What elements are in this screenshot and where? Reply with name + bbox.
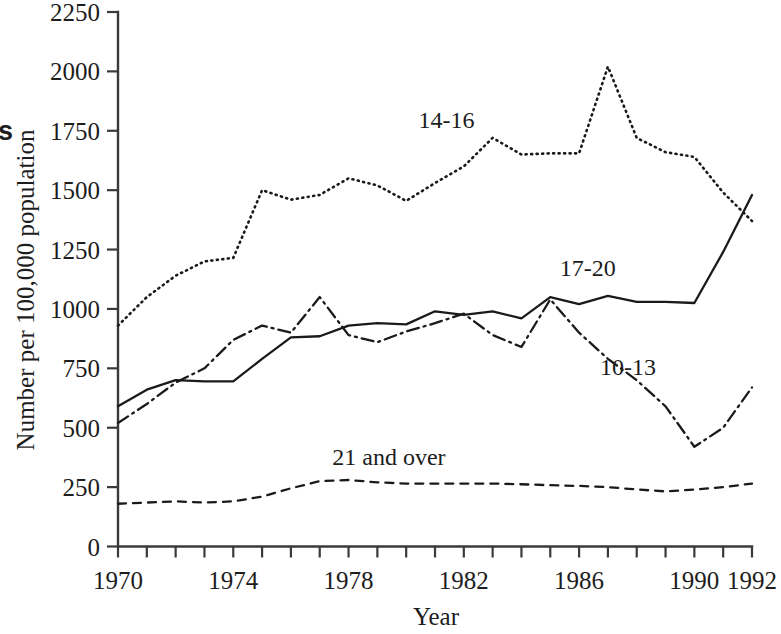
y-tick-label: 2250	[50, 0, 100, 26]
line-chart: 0250500750100012501500175020002250197019…	[0, 0, 781, 634]
y-tick-label: 500	[63, 415, 101, 442]
y-axis-title: Number per 100,000 population	[12, 129, 39, 450]
y-tick-label: 0	[88, 534, 101, 561]
edge-text-fragment: s	[0, 116, 13, 146]
y-tick-label: 250	[63, 474, 101, 501]
y-tick-label: 1250	[50, 237, 100, 264]
x-tick-label: 1992	[727, 567, 777, 594]
series-label-10-13: 10-13	[600, 354, 656, 380]
x-tick-label: 1978	[324, 567, 374, 594]
x-axis-title: Year	[413, 603, 460, 630]
chart-figure: 0250500750100012501500175020002250197019…	[0, 0, 781, 634]
x-tick-label: 1982	[439, 567, 489, 594]
x-tick-label: 1974	[208, 567, 259, 594]
x-tick-label: 1986	[554, 567, 604, 594]
y-tick-label: 1500	[50, 177, 100, 204]
y-tick-label: 1750	[50, 118, 100, 145]
series-label-14-16: 14-16	[419, 107, 475, 133]
x-tick-label: 1970	[93, 567, 143, 594]
series-label-17-20: 17-20	[560, 255, 616, 281]
y-tick-label: 1000	[50, 296, 100, 323]
y-tick-label: 750	[63, 355, 101, 382]
y-tick-label: 2000	[50, 58, 100, 85]
x-tick-label: 1990	[669, 567, 719, 594]
series-label-21-and-over: 21 and over	[332, 444, 445, 470]
